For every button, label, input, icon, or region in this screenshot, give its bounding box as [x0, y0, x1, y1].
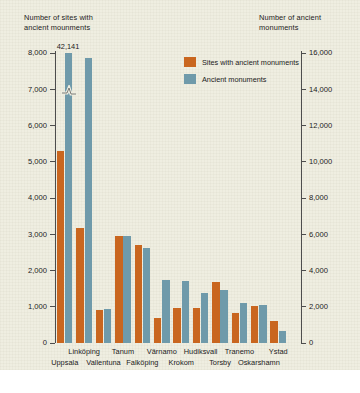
bar-monuments [143, 248, 150, 343]
page-margin [0, 370, 360, 393]
left-axis-tick-label: 8,000 [4, 48, 47, 57]
right-axis-tick-label: 2,000 [309, 302, 328, 311]
right-axis-tick-label: 14,000 [309, 85, 332, 94]
bar-monuments [162, 280, 169, 343]
bar-monuments-truncated [65, 53, 72, 343]
bar-sites [76, 228, 83, 343]
legend-label-sites: Sites with ancient monuments [202, 58, 299, 67]
left-axis-tick-label: 3,000 [4, 230, 47, 239]
left-axis-tick-label: 1,000 [4, 302, 47, 311]
bar-monuments [279, 331, 286, 343]
bar-sites [173, 308, 180, 343]
right-axis-tick-label: 6,000 [309, 230, 328, 239]
right-axis-tick [301, 343, 306, 344]
left-axis-tick [50, 125, 55, 126]
category-label-tranemo: Tranemo [225, 347, 254, 356]
left-axis-tick [50, 53, 55, 54]
left-axis-tick [50, 198, 55, 199]
legend-item-sites: Sites with ancient monuments [184, 57, 299, 67]
plot-area [55, 53, 288, 343]
legend-swatch-sites [184, 57, 196, 67]
category-label-falk-ping: Falköping [126, 358, 158, 367]
bar-monuments [104, 309, 111, 343]
category-label-v-rnamo: Värnamo [147, 347, 177, 356]
right-axis-tick-label: 16,000 [309, 48, 332, 57]
right-axis-tick [301, 161, 306, 162]
right-axis-tick-label: 12,000 [309, 121, 332, 130]
bar-monuments [182, 281, 189, 343]
bar-value-annotation: 42,141 [57, 42, 80, 51]
category-label-ystad: Ystad [269, 347, 288, 356]
left-axis-tick [50, 234, 55, 235]
right-axis-tick-label: 4,000 [309, 266, 328, 275]
legend-swatch-monuments [184, 74, 196, 84]
left-axis-tick-label: 4,000 [4, 193, 47, 202]
bar-sites [115, 236, 122, 343]
bar-sites [135, 245, 142, 343]
category-label-hudiksvall: Hudiksvall [184, 347, 218, 356]
chart-legend: Sites with ancient monuments Ancient mon… [184, 57, 299, 91]
bar-sites [193, 308, 200, 343]
bar-sites [251, 306, 258, 343]
left-axis-tick [50, 161, 55, 162]
right-axis-tick-label: 10,000 [309, 157, 332, 166]
bar-sites [96, 310, 103, 343]
right-axis-tick-label: 0 [309, 338, 313, 347]
bar-sites [232, 313, 239, 343]
bar-sites [154, 318, 161, 343]
category-label-torsby: Torsby [209, 358, 231, 367]
bar-sites [212, 282, 219, 343]
left-axis-tick [50, 270, 55, 271]
category-label-oskarshamn: Oskarshamn [238, 358, 280, 367]
left-axis-tick [50, 306, 55, 307]
left-axis-tick [50, 89, 55, 90]
category-label-link-ping: Linköping [68, 347, 100, 356]
legend-label-monuments: Ancient monuments [202, 75, 267, 84]
right-axis-tick-label: 8,000 [309, 193, 328, 202]
bar-monuments [220, 290, 227, 343]
chart-figure: Number of sites with ancient mounments N… [0, 0, 360, 370]
bar-monuments [240, 303, 247, 343]
right-axis-tick [301, 306, 306, 307]
legend-item-monuments: Ancient monuments [184, 74, 299, 84]
right-axis-tick [301, 270, 306, 271]
bar-sites [270, 321, 277, 343]
left-axis-tick-label: 5,000 [4, 157, 47, 166]
bar-monuments [259, 305, 266, 343]
left-axis-title: Number of sites with ancient mounments [24, 13, 93, 32]
left-axis-tick-label: 2,000 [4, 266, 47, 275]
left-axis-tick-label: 6,000 [4, 121, 47, 130]
bar-monuments [85, 58, 92, 343]
right-axis-tick [301, 234, 306, 235]
bar-monuments [123, 236, 130, 343]
category-label-vallentuna: Vallentuna [86, 358, 120, 367]
right-axis-tick [301, 198, 306, 199]
bar-sites [57, 151, 64, 343]
bar-monuments [201, 293, 208, 343]
category-label-uppsala: Uppsala [51, 358, 78, 367]
right-axis-tick [301, 53, 306, 54]
category-label-tanum: Tanum [112, 347, 134, 356]
right-axis-title: Number of ancient monuments [259, 13, 321, 32]
left-axis-tick [50, 343, 55, 344]
right-axis-tick [301, 125, 306, 126]
left-axis-tick-label: 0 [4, 338, 47, 347]
category-label-krokom: Krokom [168, 358, 193, 367]
left-axis-tick-label: 7,000 [4, 85, 47, 94]
right-axis-tick [301, 89, 306, 90]
